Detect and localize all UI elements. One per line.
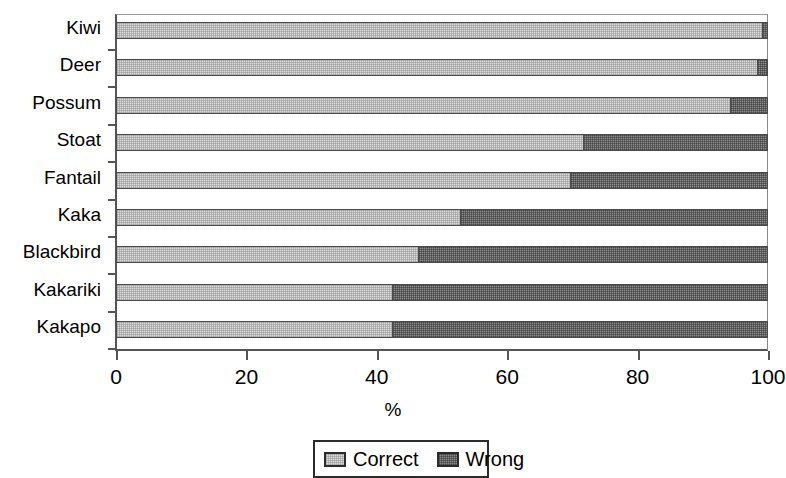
legend-label: Wrong	[466, 448, 525, 470]
x-axis-tick-label: 0	[110, 365, 122, 389]
x-axis-ticks	[116, 351, 768, 363]
bar-row	[116, 59, 768, 76]
bar-row	[116, 97, 768, 114]
bar-segment-wrong	[460, 209, 768, 226]
bar-segment-wrong	[392, 284, 768, 301]
y-axis-label-deer: Deer	[60, 55, 101, 74]
bar-segment-wrong	[762, 22, 768, 39]
bar-segment-correct	[116, 97, 731, 114]
x-axis-tick-label: 100	[750, 365, 785, 389]
bar-segment-correct	[116, 134, 584, 151]
y-axis-label-kiwi: Kiwi	[66, 18, 101, 37]
y-axis-label-kakariki: Kakariki	[33, 280, 101, 299]
x-axis-tick-label: 20	[235, 365, 258, 389]
bar-segment-correct	[116, 284, 393, 301]
bar-row	[116, 134, 768, 151]
chart-legend: CorrectWrong	[313, 440, 489, 478]
bar-row	[116, 246, 768, 263]
y-axis-label-kakapo: Kakapo	[37, 317, 101, 336]
bar-segment-correct	[116, 172, 571, 189]
x-axis-title: %	[0, 399, 786, 421]
bar-segment-wrong	[583, 134, 768, 151]
x-axis-tick-label: 60	[496, 365, 519, 389]
x-axis-tick-labels: 020406080100	[116, 365, 768, 393]
legend-label: Correct	[353, 448, 419, 470]
bar-segment-correct	[116, 59, 758, 76]
y-axis-label-fantail: Fantail	[44, 168, 101, 187]
y-axis-category-labels: KiwiDeerPossumStoatFantailKakaBlackbirdK…	[0, 12, 108, 350]
bar-segment-correct	[116, 321, 393, 338]
bar-row	[116, 321, 768, 338]
x-axis-tick-20	[246, 351, 248, 360]
bar-row	[116, 209, 768, 226]
bar-segment-wrong	[757, 59, 768, 76]
y-axis-label-kaka: Kaka	[58, 205, 101, 224]
legend-swatch-correct-icon	[324, 452, 346, 467]
bar-segment-wrong	[730, 97, 768, 114]
bar-segment-wrong	[392, 321, 768, 338]
bar-segment-correct	[116, 22, 763, 39]
y-axis-label-stoat: Stoat	[57, 130, 101, 149]
x-axis-tick-80	[638, 351, 640, 360]
bar-segment-correct	[116, 209, 461, 226]
bar-segment-correct	[116, 246, 419, 263]
legend-swatch-wrong-icon	[437, 452, 459, 467]
bar-row	[116, 22, 768, 39]
bar-row	[116, 284, 768, 301]
x-axis-tick-60	[507, 351, 509, 360]
stacked-bar-chart: KiwiDeerPossumStoatFantailKakaBlackbirdK…	[0, 0, 786, 478]
legend-item-correct: Correct	[324, 448, 419, 470]
y-axis-label-possum: Possum	[32, 93, 101, 112]
bar-segment-wrong	[570, 172, 768, 189]
x-axis-tick-0	[116, 351, 118, 360]
x-axis-tick-100	[768, 351, 770, 360]
bar-segment-wrong	[418, 246, 768, 263]
bar-row	[116, 172, 768, 189]
x-axis-tick-label: 80	[626, 365, 649, 389]
x-axis-tick-label: 40	[365, 365, 388, 389]
legend-item-wrong: Wrong	[437, 448, 525, 470]
x-axis-tick-40	[377, 351, 379, 360]
y-axis-label-blackbird: Blackbird	[23, 242, 101, 261]
bars-layer	[116, 14, 768, 351]
